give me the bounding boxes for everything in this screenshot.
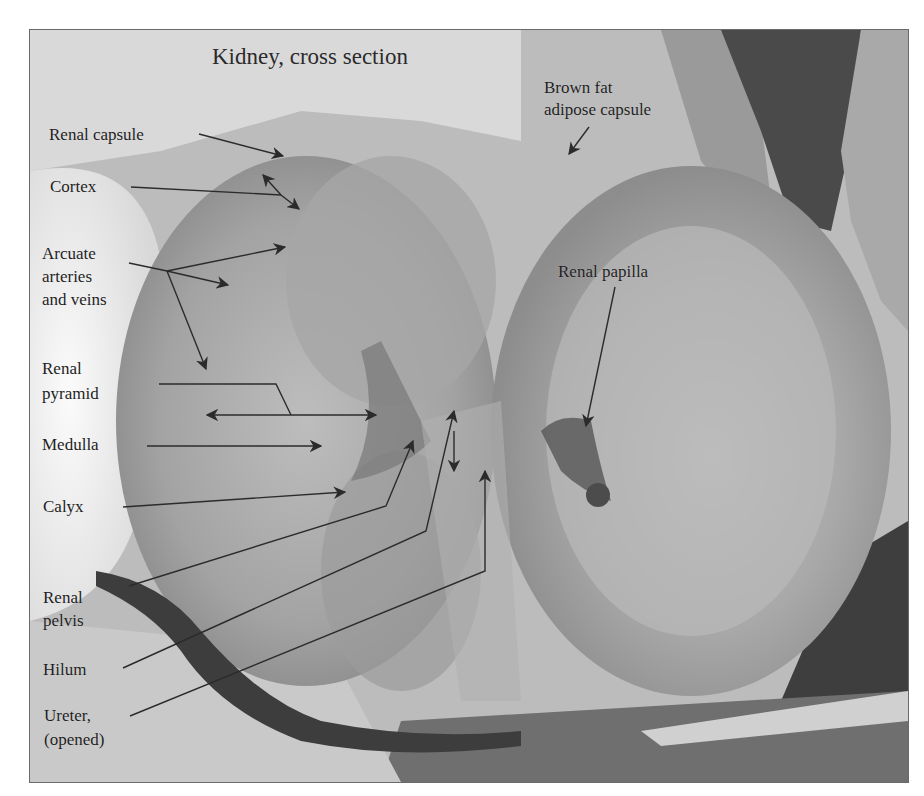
label-arcuate-line3: and veins [42, 290, 107, 310]
label-arcuate-line1: Arcuate [42, 244, 96, 264]
label-hilum: Hilum [43, 660, 86, 680]
diagram-title: Kidney, cross section [212, 47, 408, 67]
label-calyx: Calyx [43, 497, 84, 517]
label-renal-pyramid-line2: pyramid [42, 384, 99, 404]
label-renal-capsule: Renal capsule [49, 125, 144, 145]
label-brown-fat-line2: adipose capsule [544, 100, 651, 120]
label-ureter-line2: (opened) [44, 730, 104, 750]
label-renal-papilla: Renal papilla [558, 262, 648, 282]
label-medulla: Medulla [42, 435, 99, 455]
label-cortex: Cortex [50, 177, 96, 197]
label-renal-pyramid-line1: Renal [42, 359, 82, 379]
label-brown-fat-line1: Brown fat [544, 78, 612, 98]
label-ureter-line1: Ureter, [44, 706, 91, 726]
kidney-photo: Kidney, cross section Renal capsule Cort… [29, 29, 909, 783]
label-renal-pelvis-line1: Renal [43, 588, 83, 608]
label-arcuate-line2: arteries [42, 267, 92, 287]
kidney-photo-illustration [30, 30, 908, 782]
label-renal-pelvis-line2: pelvis [43, 611, 84, 631]
